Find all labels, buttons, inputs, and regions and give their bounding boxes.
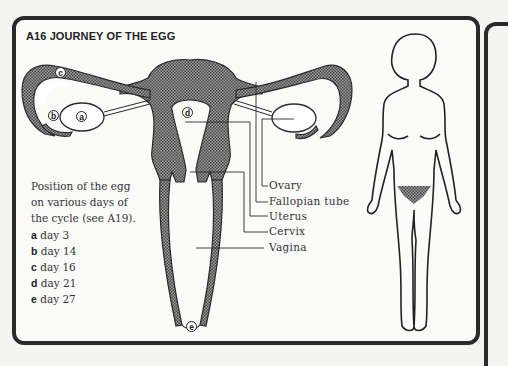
egg-marker-d: d [182,107,193,118]
caption-line: Position of the egg [31,178,136,194]
legend-text: day 16 [40,261,76,273]
legend-text: day 21 [41,277,77,289]
label-cervix: Cervix [269,225,305,237]
egg-marker-a: a [76,111,87,122]
legend-letter: e [31,293,37,305]
legend-text: day 3 [40,229,69,241]
legend-letter: a [31,229,37,241]
caption-line: the cycle (see A19). [31,210,136,226]
left-ovarian-ligament [104,100,150,116]
pubic-region [397,186,431,204]
legend-letter: d [31,277,37,289]
legend-item: b day 14 [31,243,136,259]
vagina-shape [160,180,223,329]
legend-item: c day 16 [31,259,136,275]
label-uterus: Uterus [269,210,307,222]
legend-item: a day 3 [31,227,136,243]
right-ovary [272,104,316,132]
right-ovarian-ligament [234,100,272,116]
uterus-shape [120,60,262,182]
egg-marker-b: b [48,110,59,121]
egg-marker-e: e [186,321,197,332]
legend-item: d day 21 [31,275,136,291]
female-body-outline [367,34,460,331]
legend-text: day 14 [41,245,77,257]
label-fallopian-tube: Fallopian tube [269,195,349,207]
label-vagina: Vagina [269,241,307,253]
label-ovary: Ovary [269,179,302,191]
legend-item: e day 27 [31,291,136,307]
caption-line: on various days of [31,194,136,210]
legend-text: day 27 [40,293,76,305]
legend-letter: c [31,261,37,273]
legend-letter: b [31,245,37,257]
caption: Position of the egg on various days of t… [31,178,136,308]
egg-marker-c: c [55,67,66,78]
